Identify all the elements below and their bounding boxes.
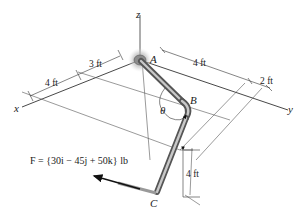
dimension-y: [160, 47, 272, 91]
rod-force-diagram: z x y 4 ft 3 ft 4: [0, 0, 308, 220]
reference-plane: [22, 60, 262, 205]
x-axis: x: [13, 60, 140, 114]
dimension-x-outer-label: 4 ft: [45, 78, 58, 88]
x-axis-label: x: [13, 102, 19, 114]
dimension-x: [28, 50, 123, 101]
dimension-z-label: 4 ft: [186, 169, 199, 179]
dimension-x-inner-label: 3 ft: [89, 59, 102, 69]
dimension-y-offset-label: 2 ft: [260, 76, 273, 86]
point-C-label: C: [150, 197, 158, 209]
rod-BC: [157, 118, 186, 192]
point-A-label: A: [149, 53, 157, 65]
force-expression: F = {30i − 45j + 50k} lb: [30, 155, 128, 166]
dimension-y-ab-label: 4 ft: [193, 58, 206, 68]
force-arrow: [94, 176, 156, 193]
z-axis-label: z: [135, 8, 141, 20]
point-B-label: B: [190, 94, 197, 106]
y-axis-label: y: [287, 103, 293, 115]
angle-theta-label: θ: [160, 104, 166, 116]
